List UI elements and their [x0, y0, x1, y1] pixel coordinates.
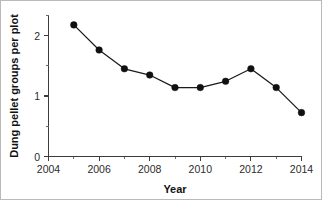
x-tick-label-2010: 2010: [189, 163, 213, 175]
x-tick-label-2014: 2014: [290, 163, 314, 175]
data-point-2006: [96, 47, 103, 54]
data-point-2009: [172, 84, 179, 91]
y-tick-label-2: 2: [34, 30, 40, 42]
x-tick-label-2012: 2012: [239, 163, 263, 175]
chart-figure: 2 1 0 2004 2006 2008 2010 2012 2014 Year: [0, 0, 322, 200]
data-point-2014: [298, 109, 305, 116]
data-point-2012: [248, 65, 255, 72]
x-axis-title: Year: [163, 183, 187, 195]
data-point-2010: [197, 84, 204, 91]
y-axis-title: Dung pellet groups per plot: [8, 14, 20, 158]
data-point-2011: [222, 78, 229, 85]
data-series: [71, 22, 305, 116]
x-tick-label-2006: 2006: [87, 163, 111, 175]
x-tick-label-2004: 2004: [37, 163, 61, 175]
y-tick-label-1: 1: [34, 90, 40, 102]
y-axis-major-ticks: [44, 36, 49, 157]
series-line: [74, 25, 302, 113]
data-point-2013: [273, 84, 280, 91]
x-tick-label-2008: 2008: [138, 163, 162, 175]
data-point-2008: [146, 72, 153, 79]
data-point-2007: [121, 65, 128, 72]
y-tick-label-0: 0: [34, 151, 40, 163]
data-point-2005: [71, 22, 78, 29]
line-chart-canvas: 2 1 0 2004 2006 2008 2010 2012 2014 Year: [1, 1, 322, 200]
